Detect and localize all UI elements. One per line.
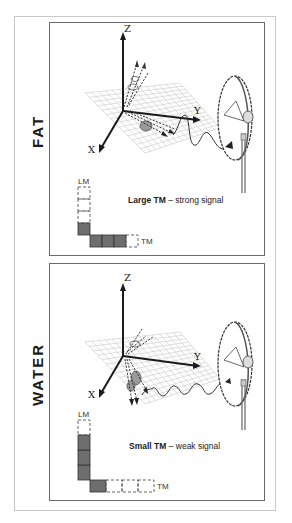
caption-rest: – strong signal	[166, 195, 224, 205]
tm-bar	[90, 480, 154, 492]
caption-rest: – weak signal	[166, 441, 220, 451]
caption-bold: Large TM	[128, 195, 166, 205]
tm-unit-empty	[122, 480, 138, 492]
tm-unit-filled	[114, 235, 126, 247]
y-axis-label: Y	[193, 105, 201, 116]
x-axis	[100, 111, 123, 150]
tm-unit-empty	[126, 235, 138, 247]
z-axis-label: Z	[124, 23, 131, 34]
lm-unit-filled	[78, 450, 90, 465]
tm-unit-empty	[106, 480, 122, 492]
grid-plane-icon	[85, 332, 220, 404]
y-axis-label: Y	[193, 351, 201, 362]
grid-line	[141, 125, 217, 149]
lm-unit-filled	[78, 465, 90, 480]
tm-unit-filled	[90, 480, 106, 492]
z-axis-label: Z	[124, 272, 131, 283]
lm-bar	[78, 187, 90, 235]
lm-unit-empty	[78, 211, 90, 223]
lm-unit-filled	[78, 435, 90, 450]
tm-bar	[90, 235, 138, 247]
water-label: WATER	[29, 343, 46, 407]
tm-unit-filled	[90, 235, 102, 247]
signal-caption: Small TM – weak signal	[129, 441, 220, 451]
x-axis-label: X	[88, 389, 96, 400]
tm-unit-empty	[138, 480, 154, 492]
fat-diagram: Z Y X	[50, 23, 266, 257]
lm-unit-empty	[78, 187, 90, 199]
lm-unit-filled	[78, 223, 90, 235]
fat-panel: Z Y X	[49, 22, 265, 256]
y-axis	[123, 356, 198, 366]
x-axis-label: X	[88, 144, 96, 155]
signal-caption: Large TM – strong signal	[128, 195, 224, 205]
grid-line	[141, 376, 217, 400]
grid-line	[145, 128, 220, 153]
water-panel: Z Y X	[49, 263, 265, 501]
water-diagram: Z Y X	[50, 264, 266, 502]
fat-label: FAT	[29, 112, 46, 152]
lm-bar	[78, 420, 90, 480]
antenna-dish-icon	[218, 322, 253, 430]
tm-unit-filled	[102, 235, 114, 247]
lm-unit-empty	[78, 199, 90, 211]
lm-unit-empty	[78, 420, 90, 435]
lm-label: LM	[78, 177, 89, 186]
tm-label: TM	[141, 237, 153, 246]
grid-line	[145, 379, 220, 404]
caption-bold: Small TM	[129, 441, 166, 451]
lm-label: LM	[78, 410, 89, 419]
z-arrowhead	[120, 283, 126, 291]
tm-label: TM	[157, 482, 169, 491]
y-arrowhead	[193, 116, 201, 123]
antenna-dish-icon	[218, 76, 253, 193]
